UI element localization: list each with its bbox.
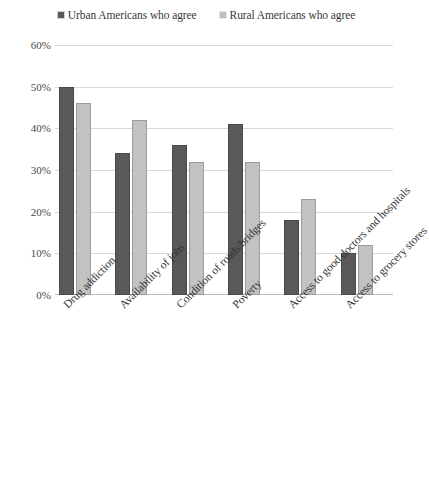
bar-rural-1[interactable] xyxy=(132,120,147,295)
bar-urban-3[interactable] xyxy=(228,124,243,295)
bar-urban-2[interactable] xyxy=(172,145,187,295)
legend-item-rural[interactable]: Rural Americans who agree xyxy=(219,9,356,21)
bar-group xyxy=(280,45,336,295)
bar-urban-4[interactable] xyxy=(284,220,299,295)
y-tick-20: 20% xyxy=(5,206,51,218)
bar-urban-0[interactable] xyxy=(59,87,74,295)
bar-rural-0[interactable] xyxy=(76,103,91,295)
y-tick-30: 30% xyxy=(5,164,51,176)
y-tick-10: 10% xyxy=(5,247,51,259)
y-tick-40: 40% xyxy=(5,122,51,134)
y-tick-60: 60% xyxy=(5,39,51,51)
legend-label-rural: Rural Americans who agree xyxy=(230,9,356,21)
rural-swatch-icon xyxy=(219,11,227,19)
legend-item-urban[interactable]: Urban Americans who agree xyxy=(57,9,197,21)
bar-urban-1[interactable] xyxy=(115,153,130,295)
urban-swatch-icon xyxy=(57,11,65,19)
bar-group xyxy=(111,45,167,295)
x-axis-labels: Drug addictionAvailability of jobsCondit… xyxy=(0,298,412,473)
chart-legend: Urban Americans who agree Rural American… xyxy=(0,9,412,21)
y-axis: 60% 50% 40% 30% 20% 10% 0% xyxy=(0,45,51,295)
y-tick-50: 50% xyxy=(5,81,51,93)
bar-group xyxy=(55,45,111,295)
legend-label-urban: Urban Americans who agree xyxy=(68,9,197,21)
